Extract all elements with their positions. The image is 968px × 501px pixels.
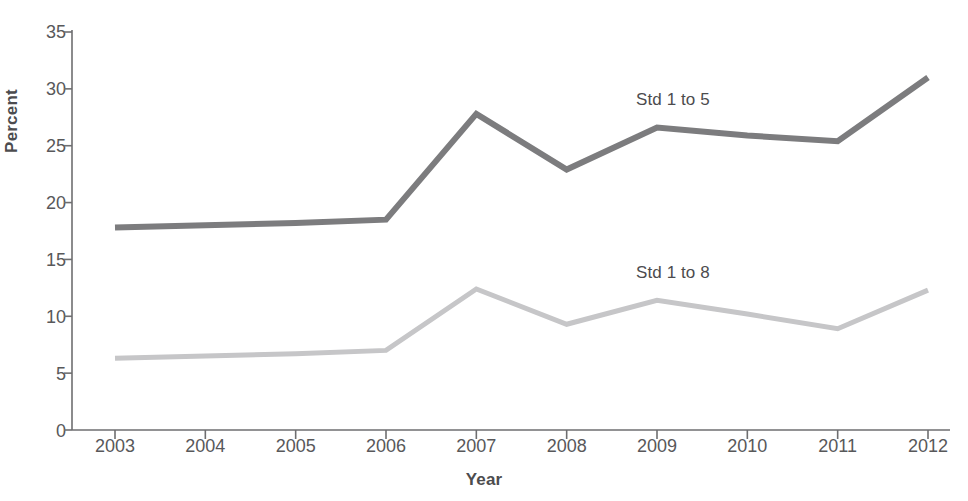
axis-lines [72,30,950,430]
line-chart: Percent Year 35 30 25 20 15 10 5 0 2003 … [0,0,968,501]
series-line-std-1-to-8 [115,289,928,358]
plot-area [0,0,968,501]
series-line-std-1-to-5 [115,77,928,227]
x-axis-ticks [115,430,928,439]
y-axis-ticks [64,32,72,430]
series-label-std-1-to-8: Std 1 to 8 [636,263,710,283]
series-label-std-1-to-5: Std 1 to 5 [636,90,710,110]
